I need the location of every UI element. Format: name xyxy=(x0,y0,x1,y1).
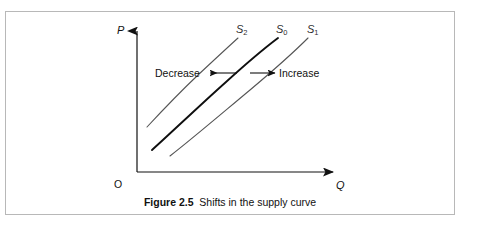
figure-caption-text: Shifts in the supply curve xyxy=(199,196,316,208)
x-axis-label: Q xyxy=(336,180,345,191)
curve-label-s0: S0 xyxy=(276,24,288,35)
curve-label-s1: S1 xyxy=(307,24,319,35)
supply-curve-s0 xyxy=(152,38,278,150)
increase-label: Increase xyxy=(279,68,319,79)
supply-curve-s1 xyxy=(170,38,308,156)
curve-label-s1-subscript: 1 xyxy=(314,28,318,37)
figure-page: P Q O S2 S0 S1 Decrease Increase Figure … xyxy=(0,0,477,233)
decrease-label: Decrease xyxy=(155,68,200,79)
curve-label-s2: S2 xyxy=(236,24,248,35)
origin-label: O xyxy=(114,179,122,190)
figure-caption: Figure 2.5 Shifts in the supply curve xyxy=(5,196,455,209)
curve-label-s0-subscript: 0 xyxy=(283,28,287,37)
figure-caption-number: Figure 2.5 xyxy=(144,196,194,208)
y-axis-label: P xyxy=(117,25,124,36)
curve-label-s2-subscript: 2 xyxy=(243,28,247,37)
